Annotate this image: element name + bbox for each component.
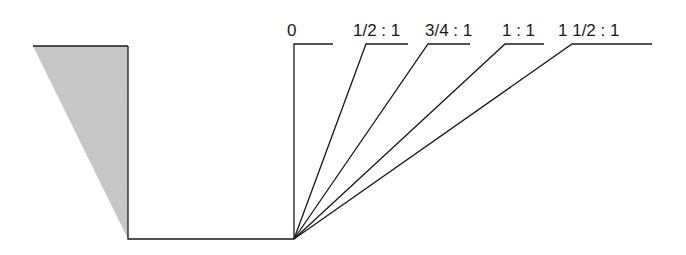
slope-label-2: 3/4 : 1 <box>425 21 472 40</box>
slope-line-2 <box>294 44 470 239</box>
slope-line-1 <box>294 44 408 239</box>
trench-wall-and-floor <box>128 46 294 239</box>
slope-labels-group: 01/2 : 13/4 : 11 : 11 1/2 : 1 <box>287 21 619 40</box>
slope-label-3: 1 : 1 <box>502 21 535 40</box>
slope-label-4: 1 1/2 : 1 <box>558 21 619 40</box>
slope-label-0: 0 <box>287 21 296 40</box>
slope-lines-group <box>294 44 652 239</box>
slope-label-1: 1/2 : 1 <box>353 21 400 40</box>
slope-line-3 <box>294 44 544 239</box>
soil-wedge-group <box>33 46 128 239</box>
excavation-slope-diagram: 01/2 : 13/4 : 11 : 11 1/2 : 1 <box>0 0 686 255</box>
soil-wedge <box>33 46 128 239</box>
trench-outline <box>128 46 294 239</box>
